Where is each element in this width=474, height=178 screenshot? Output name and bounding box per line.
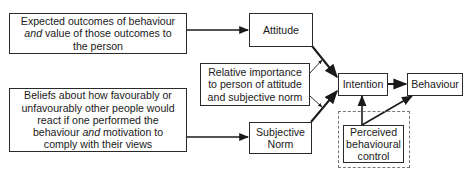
node-text-line: Subjective xyxy=(256,126,305,138)
node-text-line: Norm xyxy=(256,138,305,150)
node-behaviour: Behaviour xyxy=(407,73,463,96)
node-text-line: Beliefs about how favourably or xyxy=(21,89,174,101)
node-text-line: behaviour and motivation to xyxy=(21,126,174,138)
node-beliefs: Beliefs about how favourably or unfavour… xyxy=(9,88,187,152)
node-text-line: and subjective norm xyxy=(208,91,303,103)
node-text-line: Expected outcomes of behaviour xyxy=(21,15,175,27)
node-text-line: the person xyxy=(21,40,175,52)
node-text-line: Intention xyxy=(343,78,384,90)
emphasis-and: and xyxy=(82,126,100,138)
emphasis-and: and xyxy=(24,27,42,39)
node-text-fragment: value of those outcomes to xyxy=(45,27,172,39)
node-text-line: to person of attitude xyxy=(208,78,303,90)
node-text-line: Perceived xyxy=(346,126,401,138)
node-relative-importance: Relative importance to person of attitud… xyxy=(200,63,310,106)
arrow-relative-importance-to-attitude-link xyxy=(310,60,322,73)
node-text-line: control xyxy=(346,150,401,162)
node-perceived-behavioural-control: Perceived behavioural control xyxy=(343,125,404,163)
node-expected-outcomes: Expected outcomes of behaviour and value… xyxy=(9,13,187,54)
node-text-line: react if one performed the xyxy=(21,114,174,126)
node-text-fragment: motivation to xyxy=(103,126,163,138)
node-text-fragment: behaviour xyxy=(33,126,80,138)
arrow-subjective-norm-to-intention xyxy=(311,91,337,122)
node-text-line: Behaviour xyxy=(411,78,459,90)
node-text-line: unfavourably other people would xyxy=(21,102,174,114)
arrow-relative-importance-to-norm-link xyxy=(310,96,322,107)
node-text-line: and value of those outcomes to xyxy=(21,27,175,39)
node-attitude: Attitude xyxy=(249,13,313,47)
node-text-line: behavioural xyxy=(346,138,401,150)
node-text-line: Relative importance xyxy=(208,66,303,78)
node-text-line: comply with their views xyxy=(21,138,174,150)
node-text-line: Attitude xyxy=(263,24,299,36)
node-intention: Intention xyxy=(338,73,388,96)
node-subjective-norm: Subjective Norm xyxy=(249,122,312,154)
arrow-attitude-to-intention xyxy=(312,46,337,77)
